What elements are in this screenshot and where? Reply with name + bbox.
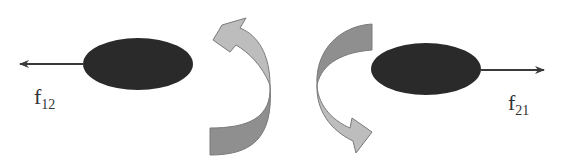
body-1: f12 [20, 38, 193, 112]
force-diagram: f12 f21 [0, 0, 573, 166]
rotation-arrow-left [210, 18, 270, 155]
body-1-ellipse [83, 38, 193, 90]
force-f21-label: f21 [508, 90, 529, 118]
body-2: f21 [371, 43, 544, 118]
rotation-right-upper-band [317, 24, 372, 85]
rotation-left-lower-band [210, 85, 270, 155]
rotation-right-lower-band [317, 85, 372, 153]
body-2-ellipse [371, 43, 481, 95]
rotation-left-upper-band [213, 18, 270, 85]
rotation-arrow-right [317, 24, 372, 153]
force-f12-label: f12 [34, 84, 55, 112]
